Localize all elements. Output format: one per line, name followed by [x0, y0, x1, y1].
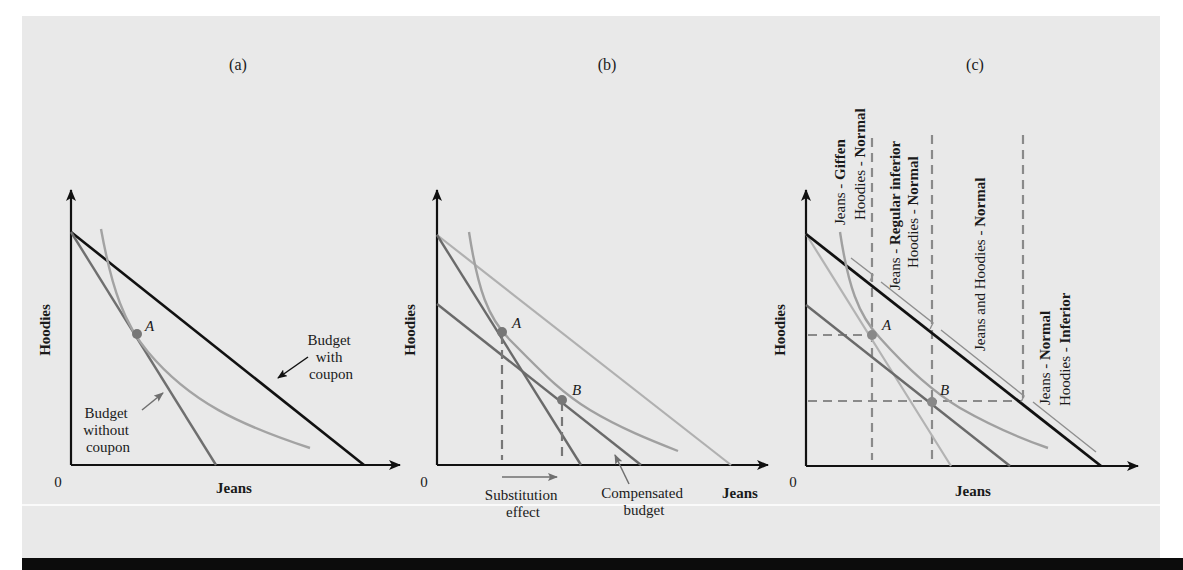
region-label-regular-inferior: Jeans - Regular inferior — [887, 140, 903, 290]
substitution-effect-label: Substitution effect — [485, 487, 561, 520]
panel-c: (c) A B Jeans - Giffen Hoodies - Normal … — [772, 56, 1138, 499]
region-label-giffen-hoodies: Hoodies - Normal — [852, 108, 868, 220]
region-label-regular-inferior-hoodies: Hoodies - Normal — [905, 156, 921, 268]
original-budget-line — [806, 234, 951, 466]
point-b — [927, 397, 937, 407]
region-label-giffen: Jeans - Giffen — [832, 139, 848, 225]
region-label-hoodies-inferior: Jeans - Normal — [1037, 311, 1053, 405]
new-budget-line — [437, 235, 731, 465]
compensated-budget-line — [437, 304, 641, 465]
point-a-label: A — [144, 318, 155, 334]
y-axis-label: Hoodies — [772, 304, 788, 356]
panel-b: (b) A B Substitution effect Compensated … — [402, 56, 768, 520]
point-a-label: A — [511, 315, 522, 331]
origin-label: 0 — [54, 474, 62, 490]
panel-a: (a) A Budget with coupon Budget without … — [37, 56, 400, 496]
budget-with-coupon-arrow — [278, 357, 308, 378]
point-b-label: B — [940, 382, 949, 398]
compensated-budget-arrow — [615, 455, 629, 484]
y-axis-label: Hoodies — [402, 304, 418, 356]
point-b-label: B — [572, 382, 581, 398]
x-axis-label: Jeans — [955, 483, 991, 499]
panel-c-label: (c) — [966, 56, 984, 74]
point-a-label: A — [881, 317, 892, 333]
y-axis-label: Hoodies — [37, 304, 53, 356]
x-axis-label: Jeans — [216, 480, 252, 496]
region-label-both-normal: Jeans and Hoodies - Normal — [972, 178, 988, 351]
origin-label: 0 — [789, 474, 797, 490]
budget-without-coupon-arrow — [142, 393, 163, 410]
x-axis-label: Jeans — [722, 485, 758, 501]
panel-a-label: (a) — [229, 56, 247, 74]
origin-label: 0 — [420, 474, 428, 490]
point-a — [867, 330, 877, 340]
point-a — [132, 329, 142, 339]
compensated-budget-label: Compensated budget — [601, 485, 686, 518]
point-a — [497, 327, 507, 337]
point-b — [557, 395, 567, 405]
region-label-hoodies-inferior-line2: Hoodies - Inferior — [1057, 292, 1073, 406]
panel-b-label: (b) — [598, 56, 617, 74]
figure: (a) A Budget with coupon Budget without … — [0, 0, 1183, 570]
budget-with-coupon-label: Budget with coupon — [307, 332, 354, 382]
original-budget-line — [437, 235, 581, 465]
budget-without-coupon-label: Budget without coupon — [83, 405, 133, 455]
